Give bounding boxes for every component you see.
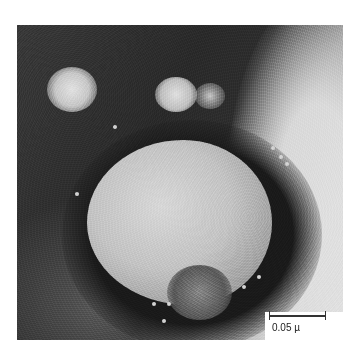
scale-bar-right-tick bbox=[325, 311, 326, 320]
scale-bar-label: 0.05 µ bbox=[272, 322, 332, 333]
scale-bar-line bbox=[269, 315, 326, 317]
micrograph-image bbox=[17, 25, 343, 340]
film-grain bbox=[17, 25, 343, 340]
